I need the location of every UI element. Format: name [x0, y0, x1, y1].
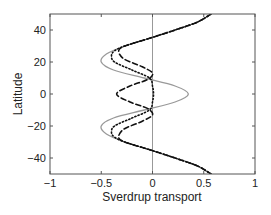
y-tick-label: −20	[27, 120, 46, 132]
x-tick-label: −1	[44, 177, 57, 189]
plot-area	[101, 14, 211, 174]
series-solid-gray	[101, 14, 211, 174]
series-dashed-black	[117, 14, 211, 174]
series-dotted-black	[111, 14, 210, 174]
x-axis-label: Sverdrup transport	[102, 190, 202, 204]
x-tick-label: 0.5	[196, 177, 211, 189]
y-tick-label: −40	[27, 152, 46, 164]
y-tick-label: 20	[34, 56, 46, 68]
y-tick-label: 0	[40, 88, 46, 100]
y-tick-label: 40	[34, 24, 46, 36]
x-tick-label: 1	[252, 177, 258, 189]
x-tick-label: 0	[149, 177, 155, 189]
x-tick-label: −0.5	[90, 177, 112, 189]
chart: −1−0.500.5140200−20−40 Sverdrup transpor…	[0, 0, 271, 215]
y-axis-label: Latitude	[11, 72, 25, 115]
